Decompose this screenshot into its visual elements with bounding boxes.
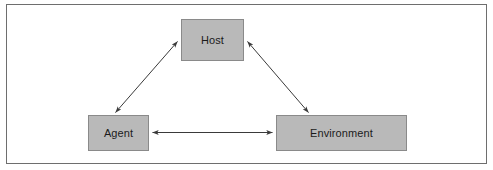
node-agent[interactable]: Agent: [88, 115, 149, 151]
edge-host-environment: [248, 42, 309, 113]
node-host[interactable]: Host: [181, 19, 244, 61]
node-environment[interactable]: Environment: [276, 115, 407, 151]
node-host-label: Host: [201, 35, 224, 46]
diagram-edges: [0, 0, 493, 170]
edge-agent-host: [116, 42, 178, 113]
node-environment-label: Environment: [310, 128, 373, 139]
diagram-canvas: Host Agent Environment: [0, 0, 493, 170]
node-agent-label: Agent: [104, 128, 133, 139]
